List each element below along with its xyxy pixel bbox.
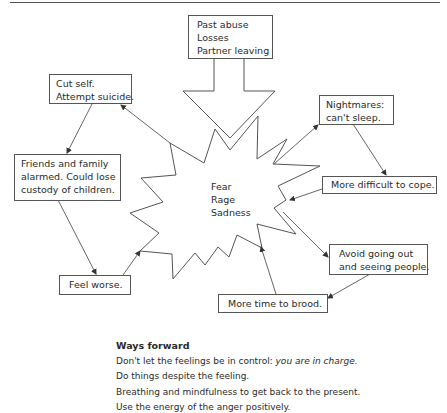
more-time-line: More time to brood.: [228, 297, 318, 310]
emotion-sadness: Sadness: [211, 206, 251, 219]
trigger-line: Past abuse: [197, 18, 264, 31]
cut-self-box: Cut self. Attempt suicide.: [49, 74, 132, 104]
ways-forward-item: Don't let the feelings be in control: yo…: [116, 354, 360, 370]
emotion-fear: Fear: [211, 180, 251, 193]
arrow-feel-worse-to-starburst: [123, 251, 140, 275]
ways-forward-section: Ways forward Don't let the feelings be i…: [116, 338, 360, 413]
ways-forward-item: Do things despite the feeling.: [116, 369, 360, 385]
cut-self-line: Cut self.: [56, 77, 125, 90]
ways-forward-title: Ways forward: [116, 338, 360, 354]
arrow-more-time-to-starburst: [261, 247, 276, 294]
arrow-nightmares-to-more-difficult: [353, 124, 386, 175]
emotion-center-label: Fear Rage Sadness: [211, 180, 251, 219]
arrow-cut-self-to-friends: [67, 104, 92, 153]
nightmares-line: can't sleep.: [326, 111, 387, 124]
feel-worse-box: Feel worse.: [59, 275, 131, 295]
more-difficult-line: More difficult to cope.: [331, 178, 428, 191]
more-difficult-box: More difficult to cope.: [322, 176, 437, 194]
ways-forward-item-text: Don't let the feelings be in control:: [116, 356, 276, 366]
friends-line: custody of children.: [21, 183, 114, 196]
ways-forward-item: Breathing and mindfulness to get back to…: [116, 385, 360, 401]
nightmares-box: Nightmares: can't sleep.: [319, 95, 394, 125]
ways-forward-item: Use the energy of the anger positively.: [116, 400, 360, 413]
friends-line: Friends and family: [21, 157, 114, 170]
avoid-line: Avoid going out: [339, 247, 418, 260]
arrow-friends-to-feel-worse: [58, 200, 96, 274]
friends-box: Friends and family alarmed. Could lose c…: [14, 154, 121, 201]
feel-worse-line: Feel worse.: [69, 278, 121, 291]
nightmares-line: Nightmares:: [326, 98, 387, 111]
trigger-line: Partner leaving: [197, 44, 264, 57]
arrow-starburst-to-avoid: [283, 212, 328, 257]
more-time-box: More time to brood.: [218, 294, 328, 313]
trigger-line: Losses: [197, 31, 264, 44]
avoid-box: Avoid going out and seeing people.: [329, 244, 428, 275]
emotion-rage: Rage: [211, 193, 251, 206]
cut-self-line: Attempt suicide.: [56, 90, 125, 103]
trigger-arrow-shape: [183, 58, 275, 138]
arrow-avoid-to-more-time: [328, 274, 370, 298]
arrow-starburst-to-cut-self: [121, 105, 170, 143]
friends-line: alarmed. Could lose: [21, 170, 114, 183]
trigger-box: Past abuse Losses Partner leaving: [188, 15, 273, 59]
avoid-line: and seeing people.: [339, 260, 418, 273]
arrow-more-difficult-to-starburst: [290, 189, 322, 200]
ways-forward-item-emphasis: you are in charge.: [276, 356, 358, 366]
